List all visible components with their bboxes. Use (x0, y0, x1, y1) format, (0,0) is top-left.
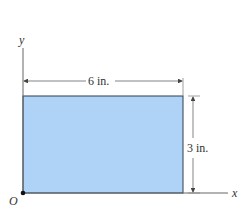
width-label: 6 in. (88, 75, 109, 87)
origin-label: O (9, 195, 18, 207)
diagram-canvas (0, 0, 248, 215)
height-label: 3 in. (187, 142, 208, 154)
x-axis-label: x (232, 187, 237, 199)
y-axis-label: y (19, 34, 24, 46)
rectangle-area (23, 96, 183, 193)
origin-dot (21, 191, 26, 196)
